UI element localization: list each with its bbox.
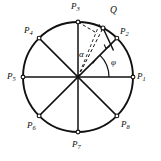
- point-marker-p8: [115, 114, 119, 118]
- angle-label-phi: φ: [111, 58, 116, 67]
- point-marker-p1: [131, 75, 135, 79]
- point-label-p8: P8: [121, 120, 130, 129]
- point-marker-p3: [76, 20, 80, 24]
- point-marker-p5: [21, 75, 25, 79]
- point-label-p5: P5: [7, 72, 16, 81]
- point-marker-q: [101, 26, 105, 30]
- point-marker-p4: [37, 36, 41, 40]
- right-angle-tick-icon: [104, 45, 109, 49]
- point-label-p6: P6: [27, 121, 36, 130]
- phi-angle-arc: [100, 55, 109, 77]
- point-marker-p6: [37, 114, 41, 118]
- point-label-p2: P2: [120, 27, 129, 36]
- point-marker-p7: [76, 130, 80, 134]
- point-label-p3: P3: [71, 2, 80, 11]
- point-label-q: Q: [110, 6, 117, 16]
- angle-label-alpha: α: [79, 50, 84, 59]
- point-marker-p2: [115, 36, 119, 40]
- point-label-p4: P4: [24, 26, 33, 35]
- point-label-p1: P1: [137, 72, 146, 81]
- geometry-figure: P1 P2 P3 P4 P5 P6 P7 P8 Q α φ: [0, 0, 161, 161]
- point-label-p7: P7: [72, 140, 81, 149]
